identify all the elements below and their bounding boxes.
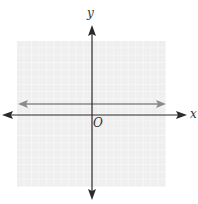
- coordinate-plane-diagram: y x O: [0, 0, 198, 204]
- x-axis-label: x: [190, 108, 197, 120]
- origin-label: O: [93, 117, 103, 129]
- y-axis-label: y: [87, 7, 94, 19]
- plane-svg: [0, 0, 198, 204]
